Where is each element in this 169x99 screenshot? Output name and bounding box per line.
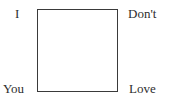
- diagram-canvas: I Don't You Love: [0, 0, 169, 99]
- square-box: [37, 9, 118, 92]
- corner-label-bottom-right: Love: [129, 82, 156, 95]
- corner-label-top-right: Don't: [128, 7, 156, 20]
- corner-label-bottom-left: You: [3, 82, 24, 95]
- corner-label-top-left: I: [15, 7, 19, 20]
